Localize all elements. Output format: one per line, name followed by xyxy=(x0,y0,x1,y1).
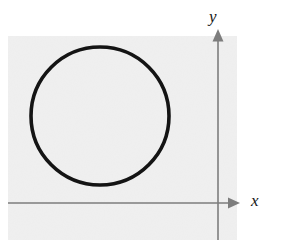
x-axis-label: x xyxy=(251,192,259,209)
gray-backdrop-texture xyxy=(8,36,237,240)
y-axis-arrowhead xyxy=(213,29,224,42)
y-axis-label: y xyxy=(209,8,217,25)
figure-canvas xyxy=(0,0,282,249)
figure-container: y x xyxy=(0,0,282,249)
